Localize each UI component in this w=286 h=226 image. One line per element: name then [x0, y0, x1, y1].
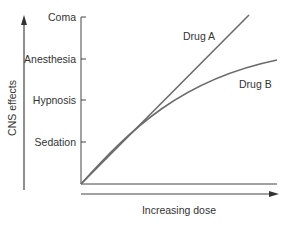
y-tick-anesthesia: Anesthesia [24, 53, 76, 65]
series-drug-a [81, 15, 249, 184]
label-drug-b: Drug B [239, 78, 272, 90]
chart: CNS effects Coma Anesthesia Hypnosis Sed… [0, 0, 286, 226]
x-direction-arrow [81, 191, 279, 197]
y-tick-hypnosis: Hypnosis [33, 94, 76, 106]
y-axis-label: CNS effects [6, 80, 18, 136]
y-tick-coma: Coma [48, 11, 76, 23]
label-drug-a: Drug A [183, 30, 215, 42]
x-axis-label: Increasing dose [142, 204, 216, 216]
y-axis [81, 17, 86, 184]
y-direction-arrow [21, 15, 27, 190]
y-tick-sedation: Sedation [35, 136, 77, 148]
